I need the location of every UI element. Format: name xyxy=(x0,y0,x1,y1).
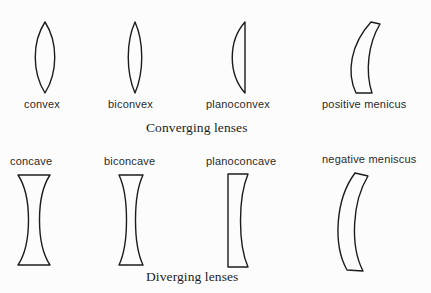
lens-label-biconcave: biconcave xyxy=(104,155,155,167)
lens-shape-convex xyxy=(35,22,55,93)
lens-shape-planoconcave xyxy=(228,174,248,267)
lens-label-biconvex: biconvex xyxy=(108,98,153,110)
lens-shape-biconcave xyxy=(119,175,143,265)
group-caption-converging: Converging lenses xyxy=(146,120,248,136)
lens-label-convex: convex xyxy=(24,98,60,110)
lens-label-concave: concave xyxy=(10,155,52,167)
lens-label-positive-meniscus: positive menicus xyxy=(322,98,407,110)
lens-shape-concave xyxy=(18,175,50,265)
lens-shape-positive-meniscus xyxy=(351,22,380,93)
lens-shape-negative-meniscus xyxy=(338,173,368,271)
lens-label-negative-meniscus: negative meniscus xyxy=(322,153,417,165)
lens-label-planoconcave: planoconcave xyxy=(206,155,276,167)
lens-label-planoconvex: planoconvex xyxy=(206,98,270,110)
lens-shape-biconvex xyxy=(128,22,142,93)
lens-shape-planoconvex xyxy=(232,22,245,93)
group-caption-diverging: Diverging lenses xyxy=(146,269,238,285)
lens-diagram: convex biconvex planoconvex positive men… xyxy=(0,0,431,293)
lens-shapes-svg xyxy=(0,0,431,293)
